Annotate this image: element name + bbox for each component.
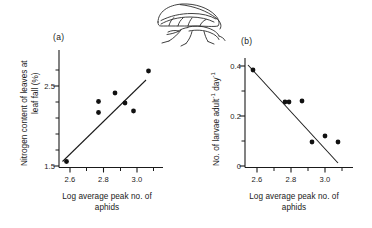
panel-b-data-points [251,68,341,145]
panel-a-x-axis-title: Log average peak no. of aphids [37,191,177,213]
panel-a-xtick-2point6: 2.6 [58,175,82,184]
panel-a-data-points [64,69,151,164]
panel-b-data-point [251,68,256,73]
panel-b-x-major-ticks [257,168,325,173]
panel-a-xtick-3point0: 3.0 [125,175,149,184]
winged-aphid-illustration [148,0,228,52]
aphid-leg-middle [186,32,192,44]
panel-b-x-axis-title-line2: aphids [282,203,306,212]
panel-a-data-point [146,69,151,74]
panel-a-x-major-ticks [70,168,137,173]
panel-a-x-axis-title-line1: Log average peak no. of [62,192,151,201]
aphid-cauda [219,36,225,41]
aphid-wing-vein-cross-3 [188,18,192,26]
panel-a-data-point [131,109,136,114]
panel-b-data-point [287,100,292,105]
panel-b-data-point [336,140,341,145]
panel-b-y-major-ticks [240,66,246,166]
panel-a-x-axis-title-line2: aphids [95,203,119,212]
panel-a-data-point [113,91,118,96]
panel-a-data-point [64,159,69,164]
panel-a-xtick-2point8: 2.8 [92,175,116,184]
panel-b-xtick-3point0: 3.0 [313,175,337,184]
panel-b-x-axis-title: Log average peak no. of aphids [224,191,364,213]
panel-b-x-axis-title-line1: Log average peak no. of [249,192,338,201]
panel-b-xtick-2point6: 2.6 [245,175,269,184]
panel-a-fit-line [63,80,147,162]
panel-a-data-point [96,99,101,104]
aphid-wing-vein-cross-1 [169,18,174,26]
aphid-head [178,28,188,32]
panel-b-data-point [323,134,328,139]
figure-container: (a) Nitrogen content of leaves at leaf f… [0,0,372,228]
panel-a-data-point [96,110,101,115]
aphid-wing-vein-main [161,17,214,24]
panel-b-xtick-2point8: 2.8 [279,175,303,184]
aphid-leg-hind [204,32,208,42]
panel-b-data-point [300,99,305,104]
panel-b-data-point [310,140,315,145]
aphid-wing-vein-cross-4 [200,20,206,26]
aphid-leg-hind-tarsus [208,42,214,45]
aphid-wing-vein-cross-2 [178,18,183,26]
aphid-leg-front-tarsus [162,41,169,43]
aphid-forewing-outline [158,4,219,26]
aphid-leg-middle-tarsus [181,44,186,47]
aphid-leg-front [169,30,181,41]
panel-b-fit-line [248,65,338,163]
panel-a-data-point [123,101,128,106]
panel-a-y-major-ticks [54,86,60,166]
